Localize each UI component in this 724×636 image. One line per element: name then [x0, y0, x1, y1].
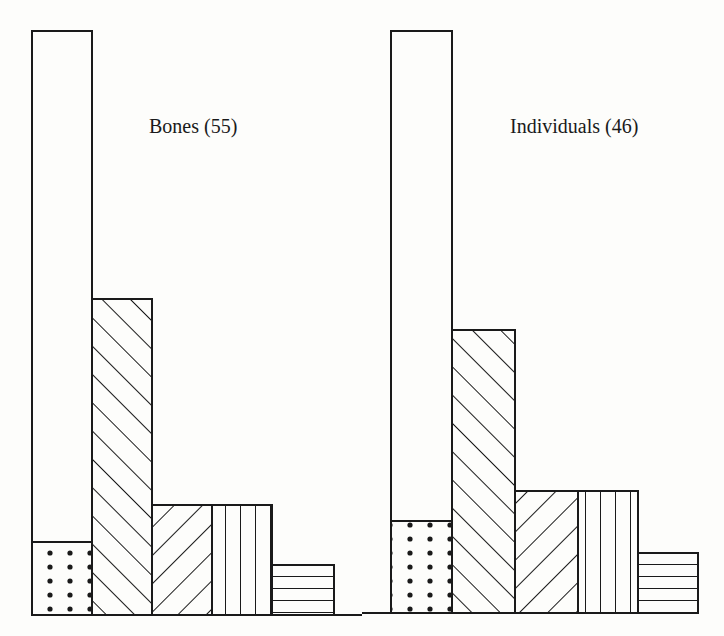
- bones-label: Bones (55): [149, 115, 237, 138]
- bones-bar-5: [272, 565, 334, 615]
- bones-bar-3: [152, 505, 212, 615]
- individuals-bar-5: [638, 553, 698, 613]
- bones-bar-4: [212, 505, 272, 615]
- bones-bar-1-dotted-segment: [32, 542, 92, 615]
- bones-bar-2: [92, 299, 152, 615]
- individuals-bar-2: [452, 330, 515, 613]
- individuals-label: Individuals (46): [510, 115, 638, 138]
- individuals-bar-3: [515, 491, 578, 613]
- bar-chart: [0, 0, 724, 636]
- individuals-bar-4: [578, 491, 638, 613]
- individuals-bar-1-dotted-segment: [391, 521, 452, 613]
- bones-bar-1: [32, 31, 92, 615]
